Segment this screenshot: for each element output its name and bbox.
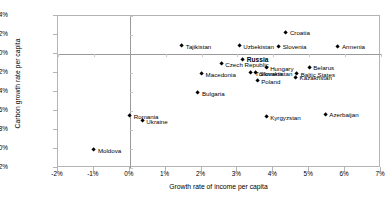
x-tick-label: 4% [257, 170, 287, 178]
y-axis-title: Carbon growth rate per capita [14, 9, 21, 159]
x-tick-mark [129, 167, 130, 171]
x-tick-mark [272, 167, 273, 171]
y-inner-tick [130, 149, 133, 150]
data-point-label: Kazakhstan [300, 74, 332, 81]
data-point-label: Turkmenistan [255, 69, 292, 76]
data-point-label: Kyrgyzstan [270, 113, 301, 120]
data-point-label: Bulgaria [202, 89, 225, 96]
y-tick-mark [53, 129, 57, 130]
x-tick-label: 6% [329, 170, 359, 178]
x-tick-mark [236, 167, 237, 171]
diamond-marker [196, 91, 201, 96]
data-point-label: Armenia [342, 43, 365, 50]
diamond-marker [276, 44, 281, 49]
y-tick-label: -8% [0, 125, 8, 132]
data-point-label: Czech Republic [225, 60, 268, 67]
data-point-label: Tajikistan [186, 42, 211, 49]
x-tick-label: 0% [114, 170, 144, 178]
x-tick-mark [380, 167, 381, 171]
diamond-marker [128, 113, 133, 118]
y-tick-label: -12% [0, 163, 8, 170]
diamond-marker [307, 65, 312, 70]
y-inner-tick [130, 35, 133, 36]
x-tick-label: 1% [150, 170, 180, 178]
y-tick-mark [53, 72, 57, 73]
x-inner-tick [58, 54, 59, 57]
x-tick-mark [93, 167, 94, 171]
y-tick-mark [53, 15, 57, 16]
x-tick-label: 7% [365, 170, 392, 178]
y-tick-mark [53, 53, 57, 54]
x-tick-label: 5% [293, 170, 323, 178]
y-tick-mark [53, 34, 57, 35]
x-tick-label: -2% [42, 170, 72, 178]
y-tick-label: -10% [0, 144, 8, 151]
x-inner-tick [381, 54, 382, 57]
x-tick-mark [165, 167, 166, 171]
x-tick-mark [57, 167, 58, 171]
y-tick-mark [53, 148, 57, 149]
data-point-label: Uzbekistan [243, 42, 274, 49]
x-inner-tick [309, 54, 310, 57]
data-point-label: Poland [261, 78, 280, 85]
x-inner-tick [202, 54, 203, 57]
scatter-chart: Carbon growth rate per capita Growth rat… [0, 0, 392, 208]
y-tick-label: -4% [0, 87, 8, 94]
y-inner-tick [130, 92, 133, 93]
diamond-marker [237, 44, 242, 49]
diamond-marker [293, 75, 298, 80]
diamond-marker [140, 118, 145, 123]
x-tick-label: -1% [78, 170, 108, 178]
diamond-marker [284, 30, 289, 35]
x-inner-tick [273, 54, 274, 57]
x-inner-tick [94, 54, 95, 57]
diamond-marker [219, 62, 224, 67]
data-point-label: Croatia [290, 29, 310, 36]
y-inner-tick [130, 16, 133, 17]
y-tick-mark [53, 91, 57, 92]
x-tick-mark [344, 167, 345, 171]
x-tick-mark [201, 167, 202, 171]
diamond-marker [323, 112, 328, 117]
data-point-label: Moldova [98, 146, 121, 153]
diamond-marker [264, 114, 269, 119]
x-tick-label: 3% [221, 170, 251, 178]
y-inner-tick [130, 73, 133, 74]
x-tick-label: 2% [186, 170, 216, 178]
y-tick-label: 0% [0, 49, 8, 56]
y-inner-tick [130, 168, 133, 169]
plot-area: TajikistanUzbekistanCroatiaSloveniaArmen… [57, 15, 380, 167]
diamond-marker [199, 72, 204, 77]
data-point-label: Slovenia [283, 43, 307, 50]
x-inner-tick [237, 54, 238, 57]
y-zero-axis-line [58, 54, 381, 55]
x-axis-title: Growth rate of income per capita [57, 183, 380, 190]
data-point-label: Macedonia [206, 70, 236, 77]
diamond-marker [249, 70, 254, 75]
diamond-marker [180, 44, 185, 49]
y-inner-tick [130, 111, 133, 112]
diamond-marker [336, 44, 341, 49]
y-tick-label: -6% [0, 106, 8, 113]
data-point-label: Ukraine [146, 117, 167, 124]
y-tick-mark [53, 110, 57, 111]
y-tick-label: 2% [0, 30, 8, 37]
data-point-label: Azerbaijan [329, 111, 358, 118]
x-inner-tick [345, 54, 346, 57]
y-inner-tick [130, 130, 133, 131]
y-tick-label: -2% [0, 68, 8, 75]
x-inner-tick [166, 54, 167, 57]
diamond-marker [92, 148, 97, 153]
diamond-marker [255, 79, 260, 84]
x-tick-mark [308, 167, 309, 171]
y-tick-label: 4% [0, 11, 8, 18]
